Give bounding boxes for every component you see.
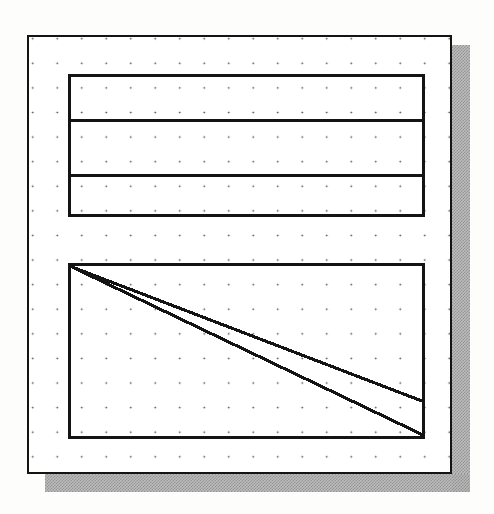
table-row xyxy=(71,77,422,119)
chart-block xyxy=(68,263,425,439)
bottom-drop-shadow xyxy=(45,474,470,492)
upper-diagonal-line xyxy=(72,267,421,401)
table-row xyxy=(71,177,422,214)
figure-root: Schematic drawing: grid sheet with table… xyxy=(0,0,494,514)
table-row xyxy=(71,122,422,174)
figure-title: Schematic drawing: grid sheet with table… xyxy=(0,0,1,1)
right-drop-shadow xyxy=(452,45,470,492)
chart-plot-area xyxy=(71,266,422,436)
table-block xyxy=(68,74,425,217)
outer-border xyxy=(27,35,452,474)
lower-diagonal-line xyxy=(72,267,421,434)
